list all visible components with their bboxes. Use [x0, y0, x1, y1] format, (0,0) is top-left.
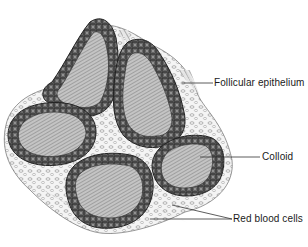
thyroid-diagram: Follicular epithelium Colloid Red blood …	[0, 0, 308, 247]
label-red-blood-cells: Red blood cells	[233, 213, 303, 225]
follicle-top-left	[43, 19, 118, 116]
label-follicular-epithelium: Follicular epithelium	[214, 77, 304, 89]
label-colloid: Colloid	[262, 151, 293, 163]
follicle-bottom	[66, 153, 153, 228]
diagram-canvas	[0, 0, 308, 247]
follicle-left	[8, 103, 96, 166]
follicle-center	[113, 39, 185, 147]
